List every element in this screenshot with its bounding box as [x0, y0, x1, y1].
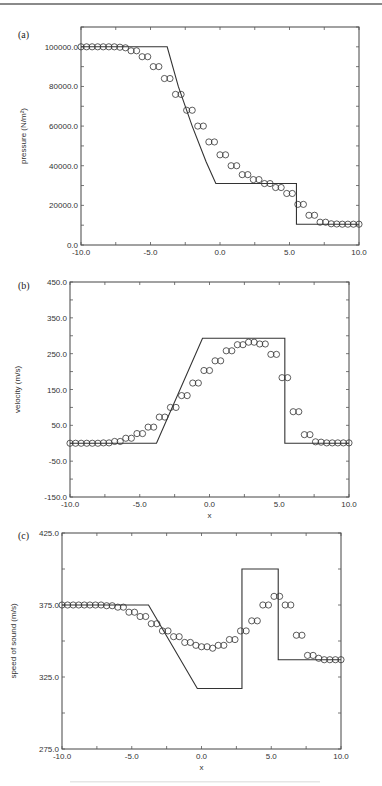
exact-solution-line — [81, 47, 359, 224]
pressure-plot-frame — [81, 27, 359, 245]
figure-panel-c: -10.0-5.00.05.010.0275.0325.0375.0425.0(… — [0, 516, 382, 778]
speed-of-sound-plot-frame — [62, 533, 341, 749]
pressure-chart: -10.0-5.00.05.010.00.020000.040000.06000… — [0, 0, 382, 262]
y-tick-label: 375.0 — [39, 601, 60, 610]
panel-label: (b) — [18, 280, 30, 292]
numerical-solution-markers — [78, 44, 362, 228]
panel-label: (a) — [18, 29, 29, 41]
y-tick-label: 325.0 — [39, 673, 60, 682]
y-tick-label: 50.0 — [51, 421, 67, 430]
y-tick-label: 100000.0 — [45, 43, 79, 52]
y-tick-label: 450.0 — [47, 278, 68, 287]
y-tick-label: -50.0 — [49, 457, 68, 466]
figure-caption-faded — [0, 772, 382, 780]
x-tick-label: -5.0 — [144, 248, 158, 257]
y-tick-label: 425.0 — [39, 529, 60, 538]
figure-panel-a: -10.0-5.00.05.010.00.020000.040000.06000… — [0, 0, 382, 262]
y-tick-label: 275.0 — [39, 745, 60, 754]
y-tick-label: 40000.0 — [49, 162, 78, 171]
y-tick-label: 150.0 — [47, 386, 68, 395]
velocity-chart: -10.0-5.00.05.010.0-150.0-50.050.0150.02… — [0, 262, 382, 524]
exact-solution-line — [62, 569, 341, 689]
x-tick-label: 0.0 — [214, 248, 226, 257]
velocity-plot-frame — [70, 282, 349, 497]
y-tick-label: -150.0 — [44, 493, 67, 502]
x-tick-label: 0.0 — [204, 500, 216, 509]
y-tick-label: 0.0 — [67, 241, 79, 250]
x-tick-label: 5.0 — [284, 248, 296, 257]
y-axis-label: velocity (m/s) — [13, 366, 22, 413]
x-tick-label: 0.0 — [196, 752, 208, 761]
x-tick-label: -5.0 — [133, 500, 147, 509]
x-tick-label: 10.0 — [351, 248, 367, 257]
x-tick-label: 5.0 — [274, 500, 286, 509]
y-axis-label: pressure (N/m²) — [19, 108, 28, 164]
numerical-solution-markers — [59, 593, 344, 663]
y-axis-label: speed of sound (m/s) — [9, 603, 18, 678]
y-tick-label: 60000.0 — [49, 122, 78, 131]
y-tick-label: 350.0 — [47, 314, 68, 323]
y-tick-label: 250.0 — [47, 350, 68, 359]
faded-caption-marks — [0, 778, 382, 786]
x-tick-label: 10.0 — [333, 752, 349, 761]
x-tick-label: 10.0 — [341, 500, 357, 509]
numerical-solution-markers — [67, 339, 352, 446]
x-tick-label: 5.0 — [266, 752, 278, 761]
panel-label: (c) — [18, 530, 29, 542]
exact-solution-line — [70, 338, 349, 443]
x-axis-label: x — [200, 763, 204, 772]
y-tick-label: 80000.0 — [49, 82, 78, 91]
x-tick-label: -5.0 — [125, 752, 139, 761]
y-tick-label: 20000.0 — [49, 201, 78, 210]
speed-of-sound-chart: -10.0-5.00.05.010.0275.0325.0375.0425.0(… — [0, 516, 382, 778]
figure-panel-b: -10.0-5.00.05.010.0-150.0-50.050.0150.02… — [0, 262, 382, 524]
